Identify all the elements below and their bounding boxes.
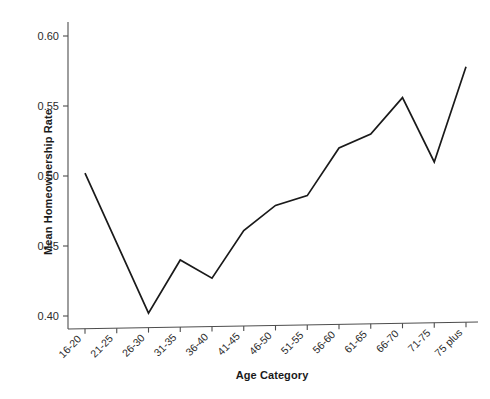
x-tick-label: 51-55 bbox=[278, 329, 306, 357]
y-tick-label: 0.40 bbox=[38, 310, 59, 322]
x-tick-label: 41-45 bbox=[215, 330, 243, 358]
y-tick-label: 0.45 bbox=[38, 240, 59, 252]
y-axis-ticks: 0.400.450.500.550.60 bbox=[38, 30, 68, 322]
chart-figure: Mean Homeownership Rate Age Category 0.4… bbox=[0, 0, 490, 399]
x-tick-label: 26-30 bbox=[119, 331, 147, 359]
x-tick-label: 16-20 bbox=[56, 333, 84, 361]
y-tick-label: 0.55 bbox=[38, 100, 59, 112]
x-tick-label: 31-35 bbox=[151, 331, 179, 359]
x-tick-label: 46-50 bbox=[246, 329, 274, 357]
x-tick-label: 36-40 bbox=[183, 330, 211, 358]
x-axis-line bbox=[68, 322, 478, 329]
x-tick-label: 21-25 bbox=[88, 332, 116, 360]
x-tick-label: 66-70 bbox=[373, 327, 401, 355]
y-tick-label: 0.50 bbox=[38, 170, 59, 182]
x-tick-label: 71-75 bbox=[405, 327, 433, 355]
data-series-line bbox=[85, 67, 466, 313]
x-tick-label: 61-65 bbox=[342, 328, 370, 356]
y-tick-label: 0.60 bbox=[38, 30, 59, 42]
x-tick-label: 75 plus bbox=[432, 326, 464, 358]
plot-area: 0.400.450.500.550.60 16-2021-2526-3031-3… bbox=[0, 0, 490, 399]
x-tick-label: 56-60 bbox=[310, 328, 338, 356]
